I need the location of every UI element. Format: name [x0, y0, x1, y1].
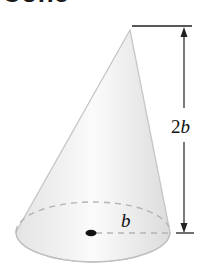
cone-diagram: b 2b: [0, 0, 204, 275]
cone-body: [16, 30, 170, 262]
height-label: 2b: [171, 116, 190, 137]
arrow-up-icon: [181, 27, 188, 37]
arrow-down-icon: [181, 223, 188, 233]
base-center-dot: [86, 230, 97, 236]
radius-label: b: [121, 210, 131, 231]
